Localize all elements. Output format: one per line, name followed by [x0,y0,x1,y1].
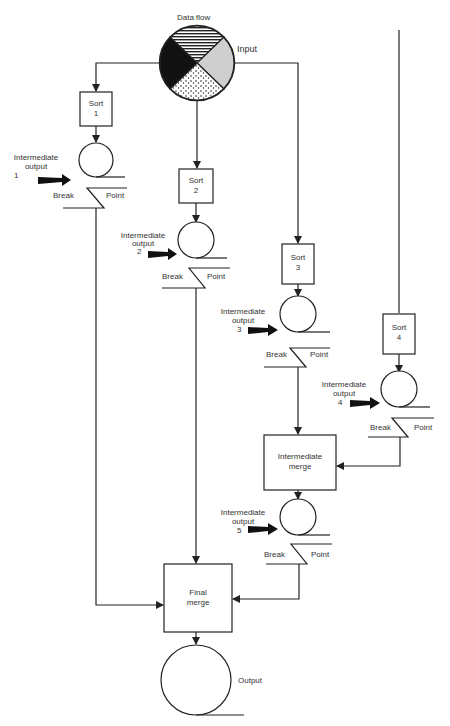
sort-4-label: Sort4 [383,323,415,343]
tape-2-icon [178,222,227,258]
sort-3-label: Sort3 [282,253,314,273]
intermediate-output-4-label: Intermediateoutput4 [318,380,370,407]
input-pie-icon [159,25,234,100]
point-4-label: Point [414,423,432,432]
intermediate-output-2-label: Intermediateoutput2 [117,232,169,256]
point-5-label: Point [311,550,329,559]
point-2-label: Point [207,272,225,281]
break-1-label: Break [53,191,74,200]
tape-4-icon [381,371,430,407]
sort-2-label: Sort2 [179,176,213,196]
intermediate-output-3-label: Intermediateoutput3 [217,307,269,334]
final-merge-label: Finalmerge [164,588,232,608]
intermediate-output-1-label: Intermediateoutput1 [8,153,64,180]
tape-1-icon [79,143,125,177]
break-3-label: Break [266,350,287,359]
break-2-label: Break [162,272,183,281]
break-5-label: Break [264,550,285,559]
point-3-label: Point [310,350,328,359]
intermediate-merge-label: Intermediatemerge [264,452,336,472]
output-label: Output [238,676,262,685]
sort-1-label: Sort1 [80,99,112,119]
tape-5-icon [280,499,330,535]
point-1-label: Point [106,191,124,200]
input-label: Input [237,45,257,54]
tape-3-icon [280,296,330,332]
diagram-canvas [0,0,450,726]
diagram-title: Data flow [177,13,210,22]
intermediate-output-5-label: Intermediateoutput5 [217,508,269,535]
output-tape-icon [161,645,244,715]
connectors [96,30,400,644]
break-4-label: Break [370,423,391,432]
